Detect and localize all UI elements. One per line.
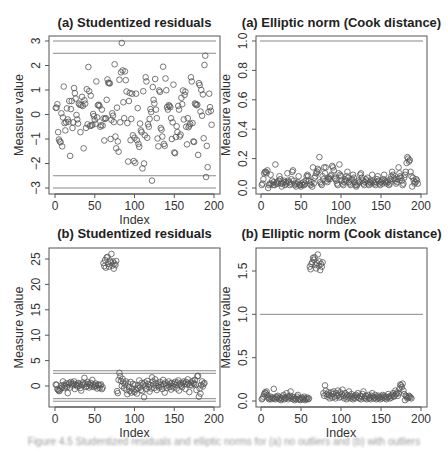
data-point xyxy=(160,134,166,140)
data-point xyxy=(160,64,166,70)
figure-caption: Figure 4.5 Studentized residuals and ell… xyxy=(0,436,448,447)
data-point xyxy=(125,159,131,165)
x-tick-label: 150 xyxy=(164,199,184,213)
data-point xyxy=(156,144,162,150)
y-tick-label: 0.2 xyxy=(236,150,250,167)
y-tick-label: 0.8 xyxy=(236,62,250,79)
x-tick-label: 0 xyxy=(258,412,265,426)
y-tick-label: 0.4 xyxy=(236,121,250,138)
data-point xyxy=(184,142,190,148)
data-point xyxy=(205,164,211,170)
data-point xyxy=(132,160,138,166)
data-point xyxy=(104,97,110,103)
x-tick-label: 150 xyxy=(371,199,391,213)
chart-title: (a) Studentized residuals xyxy=(58,15,212,30)
x-tick-label: 0 xyxy=(52,199,59,213)
data-point xyxy=(129,116,135,122)
y-tick-label: 3 xyxy=(29,37,43,44)
data-point xyxy=(115,139,121,145)
x-tick-label: 50 xyxy=(294,412,308,426)
x-tick-label: 50 xyxy=(294,199,308,213)
y-axis-label: Measure value xyxy=(12,74,26,156)
data-point xyxy=(201,135,207,141)
data-point xyxy=(207,104,213,110)
data-point xyxy=(68,106,74,112)
data-point xyxy=(81,146,87,152)
data-point xyxy=(144,79,150,85)
x-tick-label: 150 xyxy=(164,412,184,426)
plot-frame xyxy=(256,248,427,407)
y-tick-label: 1.5 xyxy=(236,262,250,279)
data-point xyxy=(152,76,158,82)
data-point xyxy=(162,143,168,149)
data-point xyxy=(117,77,123,83)
data-point xyxy=(396,165,402,171)
x-tick-label: 200 xyxy=(204,412,224,426)
data-point xyxy=(171,82,177,88)
data-point xyxy=(109,251,115,257)
data-point xyxy=(71,85,77,91)
data-point xyxy=(101,138,107,144)
data-point xyxy=(151,97,157,103)
x-tick-label: 0 xyxy=(52,412,59,426)
y-tick-label: 0.5 xyxy=(236,349,250,366)
data-point xyxy=(123,77,129,83)
chart-title: (a) Elliptic norm (Cook distance) xyxy=(242,15,441,30)
data-point xyxy=(65,390,71,396)
data-point xyxy=(139,129,145,135)
data-point xyxy=(121,99,127,105)
x-tick-label: 100 xyxy=(331,412,351,426)
data-point xyxy=(204,143,210,149)
data-point xyxy=(195,152,201,158)
data-point xyxy=(111,119,117,125)
x-tick-label: 100 xyxy=(124,412,144,426)
figure: (a) Studentized residuals050100150200−3−… xyxy=(0,0,448,454)
x-tick-label: 200 xyxy=(204,199,224,213)
x-tick-label: 100 xyxy=(331,199,351,213)
y-tick-label: −3 xyxy=(29,181,43,195)
data-point xyxy=(133,91,139,97)
data-point xyxy=(112,61,118,67)
data-point xyxy=(164,87,170,93)
x-tick-label: 50 xyxy=(88,199,102,213)
data-point xyxy=(187,389,193,395)
plot-frame xyxy=(256,36,427,194)
data-point xyxy=(55,129,61,135)
x-axis-label: Index xyxy=(119,213,150,227)
y-axis-label: Measure value xyxy=(219,74,233,156)
y-tick-label: 0 xyxy=(29,111,43,118)
y-tick-label: 25 xyxy=(29,252,43,266)
data-point xyxy=(94,79,100,85)
y-tick-label: 0 xyxy=(29,382,43,389)
data-point xyxy=(124,89,130,95)
panel-b-elliptic: (b) Elliptic norm (Cook distance)0501001… xyxy=(219,226,442,440)
data-point xyxy=(153,107,159,113)
data-point xyxy=(209,122,215,128)
y-tick-label: 1.0 xyxy=(236,32,250,49)
data-point xyxy=(64,106,70,112)
data-point xyxy=(150,84,156,90)
data-point xyxy=(126,98,132,104)
y-tick-label: −1 xyxy=(29,132,43,146)
y-tick-label: 1 xyxy=(29,86,43,93)
x-tick-label: 0 xyxy=(258,199,265,213)
data-point xyxy=(86,64,92,70)
y-tick-label: 15 xyxy=(29,303,43,317)
data-point xyxy=(152,101,158,107)
y-tick-label: −2 xyxy=(29,156,43,170)
data-point xyxy=(131,158,137,164)
panel-a-elliptic: (a) Elliptic norm (Cook distance)0501001… xyxy=(219,15,441,227)
x-tick-label: 50 xyxy=(88,412,102,426)
data-point xyxy=(322,383,328,389)
data-point xyxy=(271,386,277,392)
data-point xyxy=(163,76,169,82)
data-point xyxy=(181,117,187,123)
x-tick-label: 200 xyxy=(411,412,431,426)
data-point xyxy=(115,390,121,396)
plot-frame xyxy=(49,36,220,194)
chart-title: (b) Elliptic norm (Cook distance) xyxy=(241,226,441,241)
data-point xyxy=(189,79,195,85)
y-axis-label: Measure value xyxy=(219,286,233,368)
chart-title: (b) Studentized residuals xyxy=(57,226,212,241)
data-point xyxy=(63,128,69,134)
